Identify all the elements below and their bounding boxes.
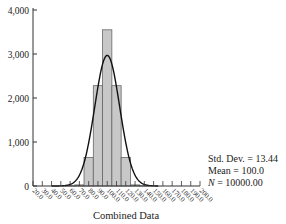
y-tick-label: 3,000: [8, 50, 30, 60]
y-tick-label: 2,000: [8, 94, 30, 104]
bars-group: [65, 30, 148, 186]
stats-mean: Mean = 100.0: [208, 165, 264, 176]
x-axis-title: Combined Data: [93, 210, 160, 221]
histogram-chart: 01,0002,0003,0004,000 20.030.040.050.060…: [0, 0, 286, 224]
histogram-bar-90.0: [93, 86, 102, 186]
stats-box: Std. Dev. = 13.44 Mean = 100.0 N = 10000…: [207, 153, 278, 188]
stats-n-value: = 10000.00: [215, 177, 263, 188]
stats-std-dev: Std. Dev. = 13.44: [208, 153, 278, 164]
y-tick-label: 4,000: [8, 6, 30, 16]
histogram-bar-110.0: [112, 86, 121, 186]
histogram-bar-100.0: [103, 30, 112, 186]
y-tick-label: 0: [24, 182, 29, 192]
y-tick-label: 1,000: [8, 138, 30, 148]
stats-n: N = 10000.00: [207, 177, 263, 188]
